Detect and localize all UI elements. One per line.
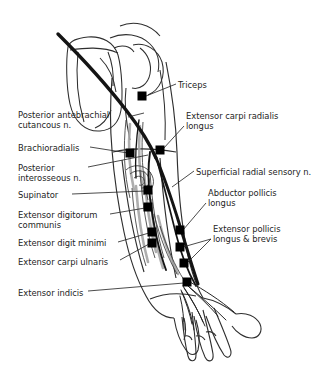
leader-extensor-digit-minimi (118, 233, 149, 242)
marker-abductor-pollicis-longus[interactable] (176, 226, 185, 235)
leader-superficial-radial-sensory-n (172, 171, 194, 187)
marker-extensor-pollicis-longus[interactable] (180, 259, 189, 268)
finger-crease-3 (185, 336, 192, 340)
tendon-to-little (180, 296, 184, 330)
label-posterior-antebrachial-cutaneous-n: Posterior antebrachial cutancous n. (18, 110, 109, 131)
elbow-crease (113, 149, 176, 152)
label-supinator: Supinator (18, 190, 58, 200)
marker-extensor-digit-minimi[interactable] (148, 228, 157, 237)
muscle-linework-group (124, 120, 184, 280)
label-abductor-pollicis-longus: Abductor pollicis longus (208, 188, 277, 209)
glenoid (132, 48, 151, 88)
marker-extensor-carpi-radialis-longus[interactable] (156, 146, 165, 155)
marker-brachioradialis[interactable] (126, 149, 135, 158)
thumb (232, 313, 261, 338)
label-superficial-radial-sensory-n: Superficial radial sensory n. (196, 167, 311, 177)
label-posterior-interosseous-n: Posterior interosseous n. (18, 163, 81, 184)
marker-extensor-indicis[interactable] (183, 278, 192, 287)
extensor-tendon-fan-group (180, 282, 234, 330)
label-extensor-digit-minimi: Extensor digit minimi (18, 238, 106, 248)
marker-supinator[interactable] (144, 186, 153, 195)
leader-supinator (72, 191, 145, 194)
leader-abductor-pollicis-longus (183, 203, 206, 230)
marker-triceps[interactable] (138, 92, 147, 101)
label-extensor-pollicis-longus-brevis: Extensor pollicis longus & brevis (213, 224, 280, 245)
leader-extensor-indicis (88, 283, 184, 291)
marker-extensor-carpi-ulnaris[interactable] (148, 239, 157, 248)
anatomy-figure: Posterior antebrachial cutancous n.Brach… (0, 0, 319, 366)
label-extensor-indicis: Extensor indicis (18, 288, 83, 298)
index-finger (206, 308, 231, 357)
finger-crease-1 (206, 332, 216, 336)
marker-extensor-digitorum-communis[interactable] (144, 203, 153, 212)
label-brachioradialis: Brachioradialis (18, 143, 79, 153)
finger-crease-2 (196, 336, 205, 340)
marker-extensor-pollicis-brevis[interactable] (176, 243, 185, 252)
label-extensor-carpi-radialis-longus: Extensor carpi radialis longus (186, 111, 278, 132)
humerus-shaft-lateral (160, 70, 165, 140)
label-triceps: Triceps (178, 80, 207, 90)
label-extensor-digitorum-communis: Extensor digitorum communis (18, 210, 97, 231)
leader-extensor-carpi-radialis-longus (163, 126, 184, 149)
label-extensor-carpi-ulnaris: Extensor carpi ulnaris (18, 257, 108, 267)
